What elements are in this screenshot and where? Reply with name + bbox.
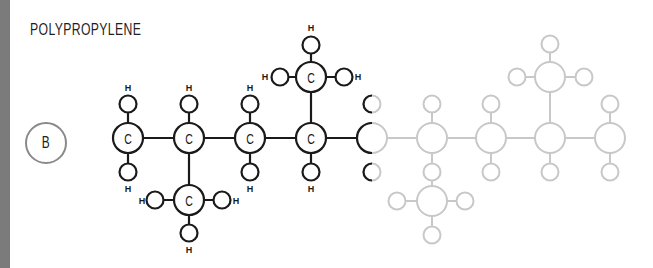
polypropylene-diagram: C C C C C C H H H H H H H H H H H H: [0, 0, 653, 268]
hydrogen-label: H: [125, 83, 132, 93]
carbon-label: C: [124, 130, 132, 147]
hydrogen-label: H: [186, 245, 193, 255]
hydrogen-label: H: [125, 184, 132, 194]
hydrogen-label: H: [233, 196, 240, 206]
hydrogen-label: H: [262, 72, 269, 82]
carbon-label: C: [185, 192, 193, 209]
carbon-label: C: [185, 130, 193, 147]
carbon-label: C: [246, 130, 254, 147]
carbon-label: C: [307, 69, 315, 86]
faded-chain: [357, 36, 625, 244]
hydrogen-label: H: [247, 184, 254, 194]
carbon-labels: C C C C C C: [124, 69, 315, 209]
hydrogen-label: H: [139, 196, 146, 206]
hydrogen-label: H: [308, 184, 315, 194]
carbon-label: C: [307, 130, 315, 147]
hydrogen-label: H: [247, 83, 254, 93]
hydrogen-label: H: [186, 83, 193, 93]
hydrogen-label: H: [355, 72, 362, 82]
active-chain: [113, 37, 372, 242]
hydrogen-label: H: [308, 23, 315, 33]
